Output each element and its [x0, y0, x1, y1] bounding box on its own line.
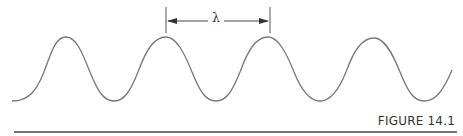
figure-caption: FIGURE 14.1	[378, 114, 455, 128]
arrow-left-icon	[167, 18, 177, 24]
wavelength-label: λ	[208, 11, 224, 25]
sine-wave	[12, 37, 452, 101]
arrow-right-icon	[259, 18, 269, 24]
